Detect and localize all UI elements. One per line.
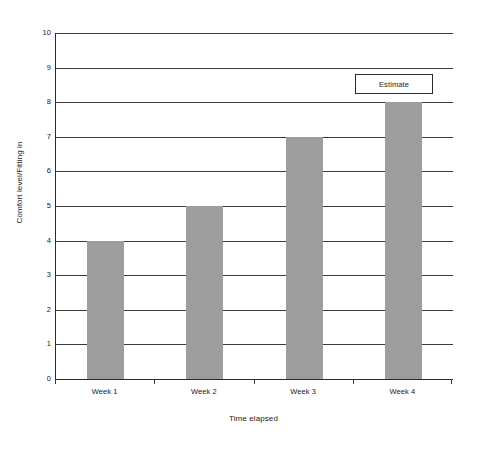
- legend-label-estimate: Estimate: [379, 80, 409, 89]
- bar-week-2: [186, 206, 223, 379]
- y-tick-label-1: 1: [31, 340, 51, 348]
- y-tick-label-6: 6: [31, 167, 51, 175]
- y-tick-label-5: 5: [31, 202, 51, 210]
- x-tick-label-week-3: Week 3: [258, 387, 348, 397]
- x-tick-3: [353, 379, 354, 384]
- x-tick-2: [254, 379, 255, 384]
- bar-week-4: [385, 102, 422, 379]
- y-tick-label-4: 4: [31, 237, 51, 245]
- gridline-10: [56, 33, 453, 34]
- x-tick-0: [55, 379, 56, 384]
- y-tick-label-8: 8: [31, 98, 51, 106]
- y-axis-tick-labels: 109876543210: [25, 33, 51, 379]
- y-tick-label-9: 9: [31, 64, 51, 72]
- bar-chart-figure: 109876543210 Comfort level/Fitting in Es…: [0, 0, 477, 451]
- x-tick-label-week-4: Week 4: [357, 387, 447, 397]
- y-tick-label-10: 10: [31, 29, 51, 37]
- y-tick-label-7: 7: [31, 133, 51, 141]
- x-axis-tick-labels: Week 1Week 2Week 3Week 4: [55, 387, 452, 401]
- y-tick-label-0: 0: [31, 375, 51, 383]
- x-tick-label-week-1: Week 1: [60, 387, 150, 397]
- x-tick-1: [154, 379, 155, 384]
- legend-box: Estimate: [355, 74, 433, 94]
- gridline-9: [56, 68, 453, 69]
- bar-week-3: [286, 137, 323, 379]
- x-axis-ticks: [55, 379, 452, 385]
- y-tick-label-3: 3: [31, 271, 51, 279]
- x-axis-title: Time elapsed: [55, 414, 452, 424]
- y-axis-title: Comfort level/Fitting in: [15, 98, 24, 268]
- bar-week-1: [87, 241, 124, 379]
- x-tick-label-week-2: Week 2: [159, 387, 249, 397]
- y-tick-label-2: 2: [31, 306, 51, 314]
- x-tick-4: [451, 379, 452, 384]
